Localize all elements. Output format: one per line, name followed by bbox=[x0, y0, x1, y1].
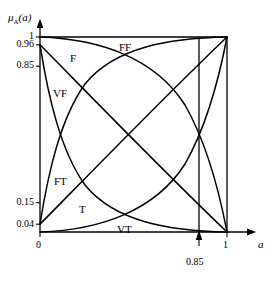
x-axis-arrow-icon bbox=[247, 229, 256, 236]
curve-label-FT: FT bbox=[54, 176, 67, 187]
curve-label-T: T bbox=[79, 204, 86, 215]
y-axis-arrow-icon bbox=[37, 19, 44, 28]
x-tick-label-1: 1 bbox=[223, 240, 228, 250]
y-tick-label-096: 0.96 bbox=[0, 39, 34, 49]
curve-label-VT: VT bbox=[117, 224, 132, 235]
y-tick-label-004: 0.04 bbox=[0, 219, 34, 229]
x-axis-title: a bbox=[258, 239, 264, 250]
y-axis-title-arg: (a) bbox=[19, 11, 32, 23]
membership-function-chart: μA(a) 1 0.96 0.85 0.15 0.04 0 1 a 0.85 F… bbox=[0, 0, 272, 281]
y-tick-label-015: 0.15 bbox=[0, 197, 34, 207]
marker-label-085: 0.85 bbox=[186, 257, 204, 267]
x-tick-label-0: 0 bbox=[36, 240, 41, 250]
y-axis-title: μA(a) bbox=[8, 12, 31, 26]
curve-label-F: F bbox=[70, 53, 76, 64]
y-tick-label-085: 0.85 bbox=[0, 60, 34, 70]
curve-label-VF: VF bbox=[53, 88, 67, 99]
curve-label-FF: FF bbox=[119, 42, 131, 53]
